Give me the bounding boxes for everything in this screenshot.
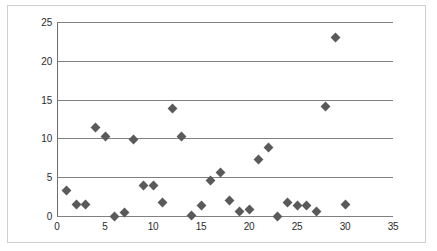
gridline-y-0 bbox=[57, 216, 393, 217]
x-tick-label-5: 5 bbox=[102, 221, 107, 232]
scatter-plot-area bbox=[57, 22, 393, 216]
data-point bbox=[263, 143, 273, 153]
data-point bbox=[196, 200, 206, 210]
data-point bbox=[167, 103, 177, 113]
x-tick-label-10: 10 bbox=[148, 221, 159, 232]
x-axis-tick-labels: 05101520253035 bbox=[0, 221, 437, 241]
x-tick-label-35: 35 bbox=[388, 221, 399, 232]
data-point bbox=[282, 197, 292, 207]
data-point bbox=[138, 181, 148, 191]
data-point bbox=[100, 131, 110, 141]
data-point bbox=[62, 185, 72, 195]
gridline-y-15 bbox=[57, 100, 393, 101]
data-point bbox=[177, 131, 187, 141]
data-point bbox=[321, 102, 331, 112]
data-point bbox=[158, 198, 168, 208]
data-point bbox=[81, 199, 91, 209]
y-tick-label-0: 0 bbox=[47, 211, 52, 222]
y-tick-label-20: 20 bbox=[41, 55, 52, 66]
x-tick-label-25: 25 bbox=[292, 221, 303, 232]
x-tick-label-20: 20 bbox=[244, 221, 255, 232]
x-tick-label-15: 15 bbox=[196, 221, 207, 232]
gridline-y-5 bbox=[57, 177, 393, 178]
y-tick-label-25: 25 bbox=[41, 17, 52, 28]
x-tick-label-30: 30 bbox=[340, 221, 351, 232]
data-point bbox=[330, 33, 340, 43]
y-axis-tick-labels: 0510152025 bbox=[0, 0, 52, 251]
y-tick-label-10: 10 bbox=[41, 133, 52, 144]
y-tick-label-15: 15 bbox=[41, 94, 52, 105]
y-tick-label-5: 5 bbox=[47, 172, 52, 183]
data-point bbox=[129, 135, 139, 145]
data-point bbox=[234, 206, 244, 216]
data-point bbox=[148, 181, 158, 191]
data-point bbox=[340, 199, 350, 209]
data-point bbox=[302, 201, 312, 211]
data-point bbox=[215, 168, 225, 178]
x-tick-label-0: 0 bbox=[54, 221, 59, 232]
data-point bbox=[244, 205, 254, 215]
gridline-y-20 bbox=[57, 61, 393, 62]
data-point bbox=[311, 206, 321, 216]
data-point bbox=[254, 154, 264, 164]
data-point bbox=[292, 201, 302, 211]
data-point bbox=[90, 123, 100, 133]
data-point bbox=[225, 196, 235, 206]
gridline-y-25 bbox=[57, 22, 393, 23]
